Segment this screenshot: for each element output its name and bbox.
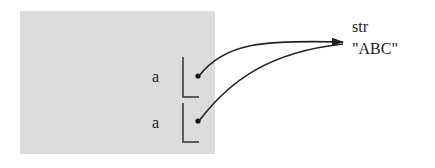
reference-arrow-2 <box>199 44 343 121</box>
reference-diagram: a a str "ABC" <box>0 0 435 168</box>
diagram-lines <box>0 0 435 168</box>
